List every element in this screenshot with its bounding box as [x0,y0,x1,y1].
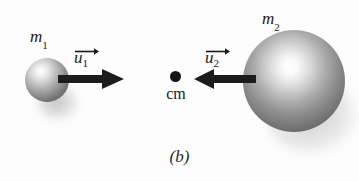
sphere-m2 [243,30,345,132]
mass-label-m2: m2 [262,10,280,30]
center-of-mass-label: cm [160,86,192,102]
vector-label-u1: u1 [74,42,99,66]
vector-label-u2-base: u [205,48,214,67]
figure-caption: (b) [0,147,359,167]
mass-label-m1: m1 [30,28,48,48]
center-of-mass-dot [170,71,181,82]
vector-label-u2-text: u2 [205,49,219,66]
mass-label-m2-subscript: 2 [274,21,280,33]
physics-figure: cm m1 m2 u1 u2 (b) [0,0,359,181]
mass-label-m2-base: m [262,9,274,28]
velocity-arrow-u1 [58,68,126,90]
vector-label-u1-subscript: 1 [83,57,89,69]
velocity-arrow-u2 [194,68,256,90]
vector-label-u1-base: u [74,48,83,67]
mass-label-m1-base: m [30,27,42,46]
vector-label-u2: u2 [205,42,230,66]
vector-label-u2-subscript: 2 [214,57,220,69]
vector-label-u1-text: u1 [74,49,88,66]
mass-label-m1-subscript: 1 [42,39,48,51]
